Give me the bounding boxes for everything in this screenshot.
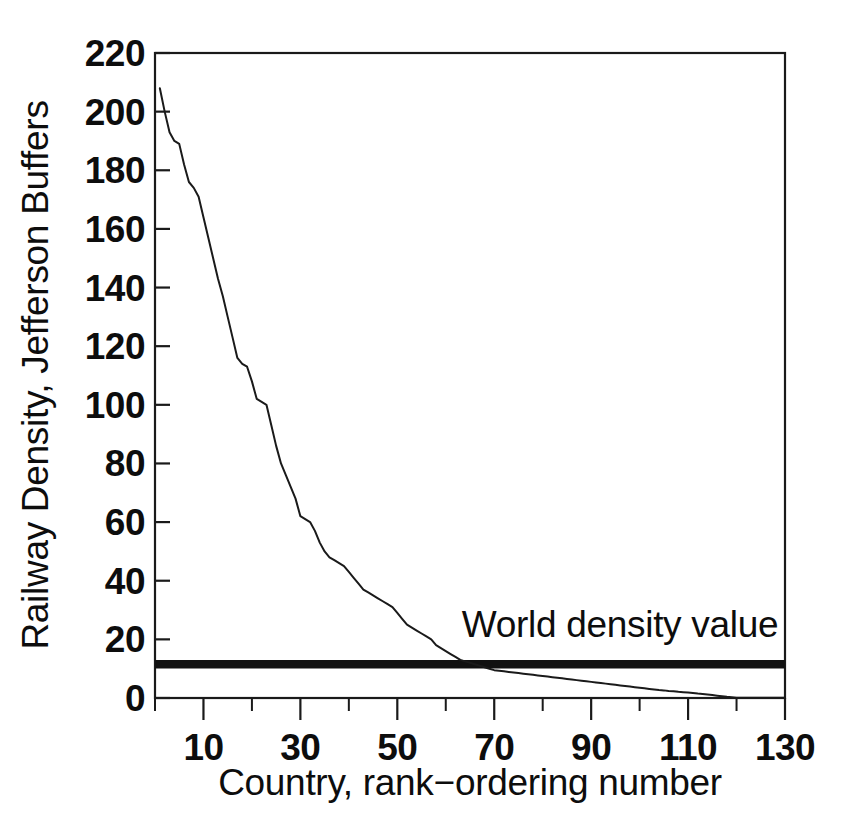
y-axis-title: Railway Density, Jefferson Buffers (15, 100, 56, 649)
y-tick-label-60: 60 (105, 502, 145, 543)
y-tick-label-40: 40 (105, 561, 145, 602)
y-axis-tick-labels: 020406080100120140160180200220 (85, 33, 145, 719)
y-axis-ticks (155, 53, 170, 698)
y-tick-label-160: 160 (85, 209, 145, 250)
y-tick-label-140: 140 (85, 268, 145, 309)
y-tick-label-180: 180 (85, 150, 145, 191)
x-tick-label-130: 130 (755, 727, 815, 768)
x-axis-title: Country, rank−ordering number (218, 762, 722, 803)
y-tick-label-200: 200 (85, 92, 145, 133)
y-tick-label-120: 120 (85, 326, 145, 367)
y-tick-label-100: 100 (85, 385, 145, 426)
chart-figure: 020406080100120140160180200220 103050709… (0, 0, 856, 824)
railway-density-line-chart: 020406080100120140160180200220 103050709… (0, 0, 856, 824)
y-tick-label-80: 80 (105, 443, 145, 484)
y-tick-label-20: 20 (105, 619, 145, 660)
world-density-annotation-label: World density value (462, 604, 779, 645)
y-tick-label-220: 220 (85, 33, 145, 74)
y-tick-label-0: 0 (125, 678, 145, 719)
x-axis-ticks (155, 698, 785, 720)
